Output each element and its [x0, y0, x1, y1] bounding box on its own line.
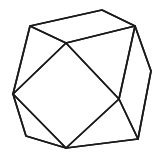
inner-square-face-path	[13, 43, 119, 148]
outline-hull-path	[13, 10, 151, 148]
polyhedron-wireframe-svg	[0, 0, 161, 163]
right-face-path	[119, 26, 151, 139]
upper-left-triangle-path	[13, 26, 66, 94]
lower-right-triangle-path	[66, 99, 138, 148]
polyhedron-figure	[0, 0, 161, 163]
top-face-path	[30, 10, 135, 43]
lower-left-triangle-path	[13, 94, 66, 148]
upper-right-triangle-path	[66, 26, 135, 99]
